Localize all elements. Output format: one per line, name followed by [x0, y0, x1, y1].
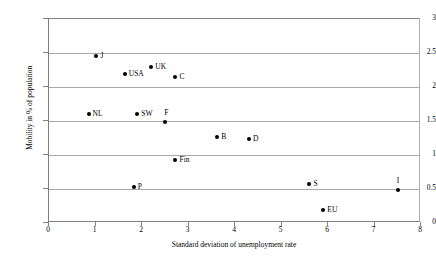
data-point [396, 188, 400, 192]
data-point-label: Fin [179, 156, 189, 164]
x-tick-label: 4 [219, 226, 249, 234]
x-tick-mark [95, 222, 96, 226]
x-tick-mark [188, 222, 189, 226]
scatter-chart-figure: Mobility in % of population 00.511.522.5… [0, 0, 436, 269]
data-point [123, 72, 127, 76]
x-tick-mark [48, 222, 49, 226]
data-points-layer: JUSAUKCNLSWFBDFinPSIEU [49, 19, 419, 221]
y-axis-title: Mobility in % of population [26, 6, 34, 210]
data-point-label: C [179, 73, 184, 81]
plot-area: JUSAUKCNLSWFBDFinPSIEU [48, 18, 420, 222]
data-point-label: USA [129, 70, 144, 78]
x-tick-label: 8 [405, 226, 435, 234]
data-point [87, 112, 91, 116]
x-tick-label: 0 [33, 226, 63, 234]
x-tick-label: 7 [359, 226, 389, 234]
data-point [321, 208, 325, 212]
x-tick-label: 2 [126, 226, 156, 234]
x-tick-mark [234, 222, 235, 226]
data-point-label: S [313, 180, 317, 188]
x-tick-label: 1 [80, 226, 110, 234]
x-tick-mark [374, 222, 375, 226]
x-tick-label: 5 [266, 226, 296, 234]
data-point-label: SW [141, 110, 152, 118]
data-point-label: P [138, 183, 142, 191]
x-tick-label: 6 [312, 226, 342, 234]
data-point-label: I [397, 177, 400, 185]
data-point [247, 137, 251, 141]
data-point [135, 112, 139, 116]
data-point [163, 120, 167, 124]
x-tick-mark [420, 222, 421, 226]
data-point [94, 54, 98, 58]
data-point-label: B [221, 133, 226, 141]
data-point [215, 135, 219, 139]
x-tick-label: 3 [173, 226, 203, 234]
data-point-label: UK [155, 63, 166, 71]
data-point [173, 158, 177, 162]
data-point [173, 75, 177, 79]
data-point [149, 65, 153, 69]
data-point-label: EU [327, 206, 337, 214]
x-tick-mark [141, 222, 142, 226]
data-point [307, 182, 311, 186]
data-point-label: NL [93, 110, 103, 118]
x-axis-title: Standard deviation of unemployment rate [48, 241, 420, 249]
x-tick-mark [327, 222, 328, 226]
data-point-label: D [253, 135, 258, 143]
x-tick-mark [281, 222, 282, 226]
data-point [132, 185, 136, 189]
data-point-label: F [164, 109, 168, 117]
data-point-label: J [100, 52, 103, 60]
